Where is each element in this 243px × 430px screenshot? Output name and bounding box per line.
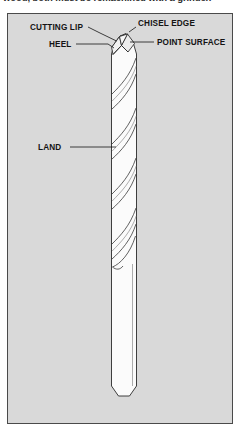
chisel-edge-leader <box>129 27 136 32</box>
callout-label-chisel-edge: CHISEL EDGE <box>138 19 195 28</box>
caption-text: wood, both must be remachined with a gri… <box>3 0 211 3</box>
callout-label-point-surface: POINT SURFACE <box>157 38 226 47</box>
caption-strip: wood, both must be remachined with a gri… <box>0 0 243 11</box>
cutting-lip-leader <box>88 27 117 41</box>
callout-label-land: LAND <box>38 143 61 152</box>
callout-label-heel: HEEL <box>49 40 71 49</box>
twist-drill-diagram: CUTTING LIP CHISEL EDGE HEEL POINT SURFA… <box>8 14 232 423</box>
figure-panel: CUTTING LIP CHISEL EDGE HEEL POINT SURFA… <box>7 13 233 424</box>
callout-label-cutting-lip: CUTTING LIP <box>30 23 83 32</box>
heel-leader <box>76 44 114 48</box>
drill-bit-illustration <box>112 34 137 397</box>
